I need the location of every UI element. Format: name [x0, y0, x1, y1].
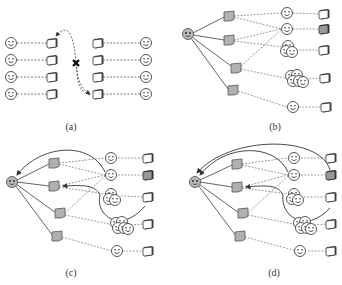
device-icon — [319, 45, 330, 56]
smiley-face-icon — [141, 72, 152, 83]
smiley-face-icon — [6, 55, 17, 66]
smiley-face-icon — [141, 55, 152, 66]
user-group-icon — [286, 70, 309, 88]
smiley-face-icon — [6, 89, 17, 100]
device-icon — [320, 73, 331, 84]
smiley-face-icon — [141, 38, 152, 49]
device-icon — [93, 38, 104, 49]
user-group-icon — [104, 189, 121, 206]
device-icon — [47, 89, 58, 100]
device-icon — [47, 55, 58, 66]
gray-device-icon — [49, 181, 59, 191]
smiley-face-icon — [106, 153, 117, 164]
device-icon — [93, 55, 104, 66]
gray-device-icon — [231, 63, 241, 73]
caption-a: (a) — [65, 121, 76, 132]
device-icon — [326, 153, 337, 164]
device-icon — [321, 102, 332, 113]
device-icon — [143, 192, 154, 203]
device-icon — [319, 24, 330, 35]
panel-d — [190, 144, 337, 256]
panel-c — [7, 150, 154, 256]
smiley-face-icon — [282, 8, 293, 19]
user-group-icon — [287, 189, 304, 206]
smiley-face-icon — [289, 153, 300, 164]
gray-device-icon — [232, 159, 242, 169]
smiley-face-icon — [112, 246, 123, 257]
user-group-icon — [294, 217, 317, 235]
source-user-icon — [190, 177, 201, 188]
gray-device-icon — [55, 208, 65, 218]
user-group-icon — [281, 41, 298, 58]
panel-a — [6, 30, 152, 99]
gray-device-icon — [52, 231, 62, 241]
user-group-icon — [111, 217, 134, 235]
device-icon — [319, 9, 330, 20]
smiley-face-icon — [288, 102, 299, 113]
smiley-face-icon — [141, 89, 152, 100]
smiley-face-icon — [106, 170, 117, 181]
gray-device-icon — [224, 11, 234, 21]
device-icon — [143, 219, 154, 230]
caption-b: (b) — [269, 121, 281, 132]
device-icon — [93, 72, 104, 83]
device-icon — [47, 38, 58, 49]
device-icon — [93, 89, 104, 100]
device-icon — [143, 170, 154, 181]
device-icon — [143, 246, 154, 257]
source-user-icon — [7, 177, 18, 188]
smiley-face-icon — [6, 72, 17, 83]
gray-device-icon — [224, 35, 234, 45]
gray-device-icon — [232, 182, 242, 192]
diagram-canvas — [0, 0, 342, 285]
gray-device-icon — [235, 231, 245, 241]
device-icon — [47, 72, 58, 83]
caption-d: (d) — [268, 267, 280, 278]
device-icon — [326, 246, 337, 257]
smiley-face-icon — [6, 38, 17, 49]
smiley-face-icon — [282, 24, 293, 35]
panel-b — [183, 8, 332, 113]
gray-device-icon — [228, 85, 238, 95]
source-user-icon — [183, 29, 194, 40]
gray-device-icon — [49, 158, 59, 168]
smiley-face-icon — [289, 170, 300, 181]
gray-device-icon — [238, 208, 248, 218]
smiley-face-icon — [295, 246, 306, 257]
caption-c: (c) — [65, 267, 76, 278]
device-icon — [326, 219, 337, 230]
device-icon — [143, 153, 154, 164]
device-icon — [326, 170, 337, 181]
device-icon — [326, 192, 337, 203]
